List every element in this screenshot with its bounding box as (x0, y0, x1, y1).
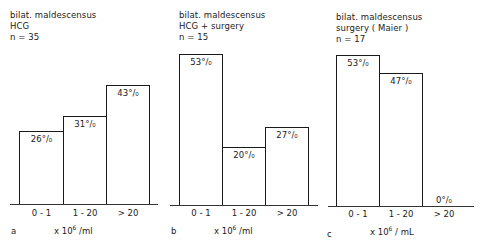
x-tick-label: > 20 (265, 208, 309, 218)
bar-value-label: 20°/₀ (222, 150, 266, 160)
bar-0-1 (336, 55, 380, 206)
panel-title-line2: surgery ( Maier ) (336, 23, 408, 34)
bar-value-label: 26°/₀ (19, 134, 64, 144)
x-tick-label: 0 - 1 (336, 209, 380, 219)
panel-letter: b (171, 226, 176, 236)
bar-gt-20 (106, 85, 150, 204)
bar-value-label: 47°/₀ (379, 76, 423, 86)
panel-title-line3: n = 35 (10, 32, 39, 43)
panel-title-line1: bilat. maldescensus (336, 12, 422, 23)
x-axis-line (328, 206, 474, 207)
panel-title-line2: HCG + surgery (179, 21, 244, 32)
unit-prefix: x 10 (214, 226, 233, 236)
chart-panel-a: bilat. maldescensus HCG n = 35 26°/₀ 31°… (0, 0, 160, 248)
unit-suffix: /ml (236, 226, 252, 236)
x-axis-unit-label: x 106 /ml (54, 224, 93, 236)
bar-1-20 (379, 73, 423, 206)
bar-value-label: 27°/₀ (265, 130, 309, 140)
chart-panel-c: bilat. maldescensus surgery ( Maier ) n … (320, 0, 484, 248)
bar-value-label: 53°/₀ (336, 58, 380, 68)
bar-value-label: 31°/₀ (63, 119, 107, 129)
x-axis-unit-label: x 106 /ml (214, 224, 253, 236)
x-tick-label: > 20 (106, 208, 150, 218)
x-axis-line (170, 205, 318, 206)
x-tick-label: 1 - 20 (222, 208, 266, 218)
unit-prefix: x 10 (370, 227, 389, 237)
panel-letter: a (11, 226, 16, 236)
x-tick-label: 0 - 1 (19, 208, 64, 218)
x-tick-label: > 20 (422, 209, 466, 219)
unit-suffix: / mL (392, 227, 413, 237)
chart-panel-b: bilat. maldescensus HCG + surgery n = 15… (160, 0, 320, 248)
panel-title-line1: bilat. maldescensus (179, 10, 265, 21)
panel-title-line1: bilat. maldescensus (10, 10, 96, 21)
x-tick-label: 1 - 20 (379, 209, 423, 219)
bar-value-label: 0°/₀ (422, 195, 466, 205)
panel-title-line3: n = 17 (336, 34, 365, 45)
bar-1-20 (63, 116, 107, 204)
x-axis-line (10, 204, 158, 205)
x-axis-unit-label: x 106 / mL (370, 225, 414, 237)
unit-prefix: x 10 (54, 226, 73, 236)
panel-title-line3: n = 15 (179, 32, 208, 43)
bar-0-1 (179, 54, 223, 205)
bar-value-label: 53°/₀ (179, 57, 223, 67)
panel-title-line2: HCG (10, 21, 29, 32)
unit-suffix: /ml (76, 226, 92, 236)
panel-letter: c (327, 229, 332, 239)
x-tick-label: 1 - 20 (63, 208, 107, 218)
bar-value-label: 43°/₀ (106, 88, 150, 98)
x-tick-label: 0 - 1 (179, 208, 223, 218)
